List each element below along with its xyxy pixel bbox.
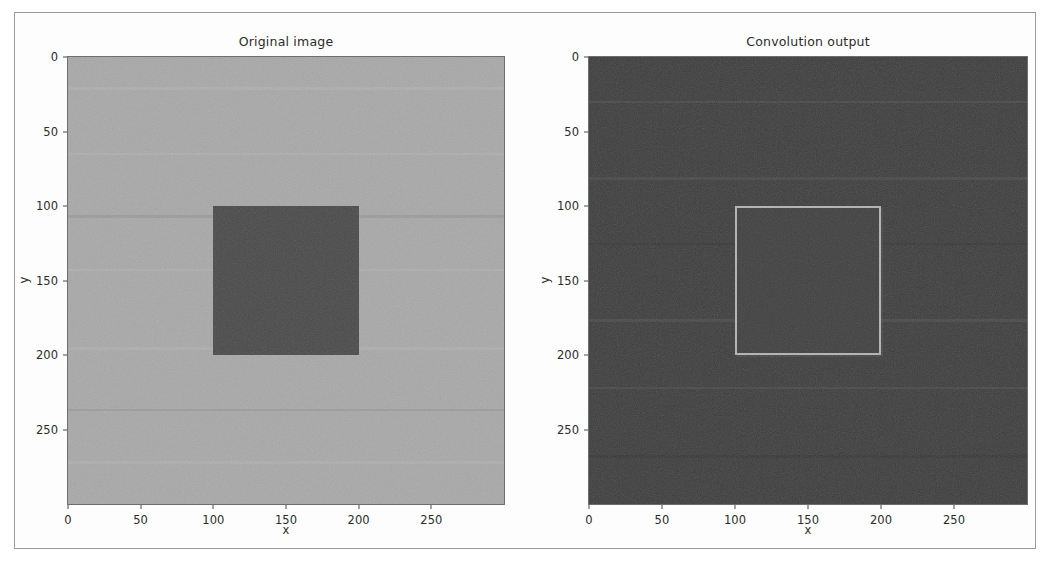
- axis-label-x-convolution: x: [588, 523, 1028, 537]
- ytick-label: 150: [557, 274, 588, 288]
- panel-title-convolution: Convolution output: [588, 34, 1028, 49]
- panel-convolution-output: Convolution output: [588, 56, 1028, 505]
- plot-area-convolution: [588, 56, 1028, 505]
- region-dark-square: [213, 206, 358, 355]
- ytick-label: 100: [36, 199, 67, 213]
- ytick-label: 0: [572, 50, 588, 64]
- noise-texture-outline-square: [737, 208, 883, 357]
- panel-title-original: Original image: [67, 34, 505, 49]
- ytick-label: 150: [36, 274, 67, 288]
- noise-texture-dark-square: [213, 206, 359, 356]
- axis-label-y-original: y: [17, 265, 31, 295]
- region-edge-outline-square: [735, 206, 881, 355]
- ytick-label: 50: [564, 125, 588, 139]
- axis-label-x-original: x: [67, 523, 505, 537]
- ytick-label: 100: [557, 199, 588, 213]
- ytick-label: 250: [36, 423, 67, 437]
- panel-original-image: Original image: [67, 56, 505, 505]
- ytick-label: 0: [51, 50, 67, 64]
- ytick-label: 200: [36, 348, 67, 362]
- ytick-label: 200: [557, 348, 588, 362]
- matplotlib-figure: Original image: [0, 0, 1055, 565]
- plot-area-original: [67, 56, 505, 505]
- ytick-label: 250: [557, 423, 588, 437]
- axis-label-y-convolution: y: [538, 265, 552, 295]
- ytick-label: 50: [43, 125, 67, 139]
